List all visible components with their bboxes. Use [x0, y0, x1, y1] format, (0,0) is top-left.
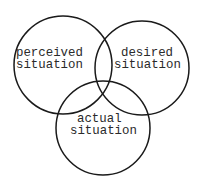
desired-label-line2: situation [114, 58, 181, 72]
venn-diagram: perceived situation desired situation ac… [0, 0, 202, 190]
actual-label-line2: situation [70, 124, 137, 138]
perceived-label-line2: situation [16, 58, 83, 72]
